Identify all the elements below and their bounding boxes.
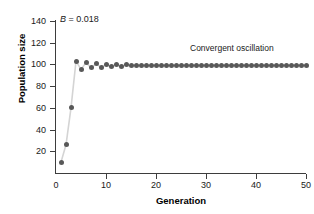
y-tick <box>50 130 55 131</box>
data-point <box>244 63 249 68</box>
data-point <box>69 105 74 110</box>
x-tick-label: 50 <box>294 181 314 190</box>
data-point <box>204 63 209 68</box>
data-point <box>129 63 134 68</box>
y-tick-label: 60 <box>20 104 46 113</box>
data-point <box>289 63 294 68</box>
data-point <box>294 63 299 68</box>
y-tick-label: 40 <box>20 126 46 135</box>
data-point <box>79 67 84 72</box>
data-point <box>284 63 289 68</box>
data-point <box>214 63 219 68</box>
data-point <box>89 65 94 70</box>
data-point <box>144 63 149 68</box>
data-point <box>184 63 189 68</box>
data-point <box>74 59 79 64</box>
x-tick-label: 20 <box>144 181 168 190</box>
data-point <box>269 63 274 68</box>
y-tick-label: 100 <box>20 60 46 69</box>
data-point <box>304 63 309 68</box>
data-point <box>64 142 69 147</box>
data-point <box>84 60 89 65</box>
series-line <box>56 21 306 173</box>
x-tick <box>156 174 157 179</box>
population-growth-chart: Population size Generation B = 0.018 Con… <box>0 0 314 214</box>
x-tick <box>206 174 207 179</box>
data-point <box>249 63 254 68</box>
data-point <box>279 63 284 68</box>
data-point <box>209 63 214 68</box>
data-point <box>274 63 279 68</box>
data-point <box>154 63 159 68</box>
y-tick <box>50 151 55 152</box>
data-point <box>109 64 114 69</box>
x-axis-title: Generation <box>56 195 306 206</box>
data-point <box>264 63 269 68</box>
x-tick <box>306 174 307 179</box>
x-tick-label: 0 <box>44 181 68 190</box>
data-point <box>234 63 239 68</box>
data-point <box>224 63 229 68</box>
data-point <box>159 63 164 68</box>
data-point <box>99 65 104 70</box>
data-point <box>174 63 179 68</box>
x-tick-label: 40 <box>244 181 268 190</box>
data-point <box>254 63 259 68</box>
x-tick <box>106 174 107 179</box>
data-point <box>189 63 194 68</box>
y-tick <box>50 64 55 65</box>
y-tick <box>50 86 55 87</box>
data-point <box>259 63 264 68</box>
x-tick-label: 10 <box>94 181 118 190</box>
y-tick-label: 80 <box>20 82 46 91</box>
data-point <box>94 61 99 66</box>
x-axis-line <box>55 173 306 174</box>
y-tick-label: 20 <box>20 147 46 156</box>
data-point <box>299 63 304 68</box>
y-tick-label: 120 <box>20 39 46 48</box>
y-tick-label: 140 <box>20 17 46 26</box>
x-tick <box>256 174 257 179</box>
plot-area <box>56 21 306 173</box>
y-tick <box>50 108 55 109</box>
data-point <box>104 62 109 67</box>
x-tick-label: 30 <box>194 181 218 190</box>
data-point <box>114 62 119 67</box>
y-tick <box>50 43 55 44</box>
data-point <box>169 63 174 68</box>
data-point <box>229 63 234 68</box>
data-point <box>219 63 224 68</box>
data-point <box>199 63 204 68</box>
data-point <box>149 63 154 68</box>
data-point <box>179 63 184 68</box>
data-point <box>239 63 244 68</box>
data-point <box>134 63 139 68</box>
data-point <box>59 160 64 165</box>
data-point <box>164 63 169 68</box>
data-point <box>194 63 199 68</box>
y-tick <box>50 21 55 22</box>
data-point <box>119 64 124 69</box>
data-point <box>139 63 144 68</box>
